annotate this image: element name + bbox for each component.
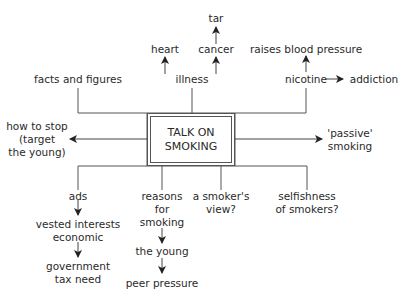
node-heart: heart [151, 43, 179, 56]
node-nicotine: nicotine [285, 73, 327, 86]
central-topic-line2: SMOKING [165, 140, 217, 154]
node-government-tax-need: government tax need [46, 260, 110, 286]
node-vested-interests: vested interests economic [36, 218, 120, 244]
node-a-smokers-view: a smoker's view? [193, 190, 250, 216]
node-cancer: cancer [198, 43, 233, 56]
node-facts-and-figures: facts and figures [34, 73, 122, 86]
node-illness: illness [176, 73, 209, 86]
node-selfishness-of-smokers: selfishness of smokers? [275, 190, 338, 216]
node-passive-smoking: 'passive' smoking [327, 127, 372, 153]
node-peer-pressure: peer pressure [126, 277, 199, 290]
central-topic-box: TALK ON SMOKING [147, 113, 235, 166]
node-addiction: addiction [350, 73, 399, 86]
node-the-young: the young [135, 245, 188, 258]
node-reasons-for-smoking: reasons for smoking [140, 190, 184, 229]
node-ads: ads [69, 190, 88, 203]
node-how-to-stop: how to stop (target the young) [6, 120, 68, 159]
node-raises-blood-pressure: raises blood pressure [250, 43, 362, 56]
node-tar: tar [209, 12, 224, 25]
mind-map: TALK ON SMOKING facts and figures illnes… [0, 0, 406, 306]
central-topic-line1: TALK ON [167, 126, 214, 140]
